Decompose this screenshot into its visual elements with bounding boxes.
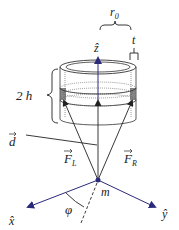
- svg-text:FL: FL: [63, 151, 77, 168]
- m-label: m: [101, 185, 110, 199]
- cylinder-force-diagram: ẑ r0 t 2 h d FL FR x̂ ŷ φ m: [0, 0, 179, 230]
- 2h-brace: 2 h: [16, 69, 58, 123]
- force-left-label: FL: [63, 149, 77, 168]
- t-label: t: [132, 33, 136, 47]
- x-hat-label: x̂: [8, 214, 15, 228]
- force-right-label: FR: [123, 149, 137, 168]
- t-brace: t: [130, 33, 138, 60]
- dashed-reference-line: [81, 183, 97, 223]
- 2h-label: 2 h: [16, 88, 32, 103]
- force-lines: [64, 101, 132, 180]
- r0-label: r0: [110, 5, 119, 21]
- r0-brace: r0: [100, 5, 131, 30]
- z-hat-label: ẑ: [93, 41, 99, 55]
- mass-point: [96, 178, 101, 183]
- y-hat-label: ŷ: [161, 207, 168, 221]
- svg-text:d: d: [9, 134, 16, 149]
- phi-label: φ: [65, 202, 72, 217]
- svg-text:FR: FR: [123, 151, 137, 168]
- x-axis: [28, 180, 98, 207]
